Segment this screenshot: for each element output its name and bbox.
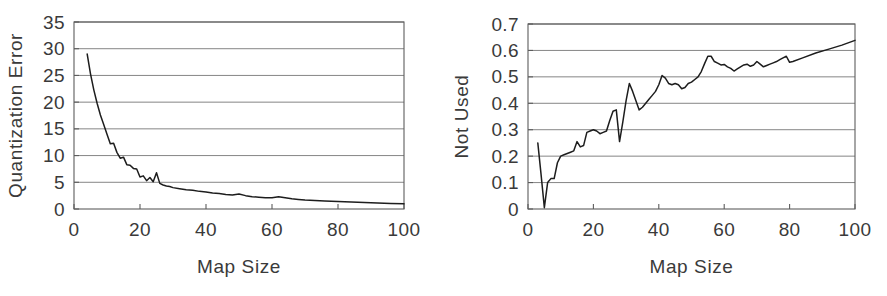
- ytick-label-4: 0.4: [491, 93, 519, 114]
- ytick-label-2: 0.2: [491, 146, 519, 167]
- xtick-label-3: 60: [261, 219, 283, 240]
- ytick-label-5: 0.5: [491, 66, 519, 87]
- ytick-label-7: 0.7: [491, 14, 519, 35]
- ytick-label-5: 25: [43, 65, 65, 86]
- figure-two-line-charts: 05101520253035020406080100Quantization E…: [0, 0, 887, 296]
- ytick-label-1: 5: [54, 172, 65, 193]
- gridlines-group: [528, 24, 855, 183]
- chart-panel-quantization-error: 05101520253035020406080100Quantization E…: [0, 0, 443, 296]
- plot-frame-rect: [528, 24, 855, 209]
- ytick-labels-group: 00.10.20.30.40.50.60.7: [491, 14, 519, 220]
- tickmarks-group: [528, 24, 855, 209]
- x-axis-title: Map Size: [649, 256, 733, 277]
- plot-frame: [74, 22, 404, 209]
- xtick-label-4: 80: [327, 219, 349, 240]
- xtick-label-2: 40: [648, 219, 670, 240]
- xtick-label-3: 60: [713, 219, 735, 240]
- y-axis-title: Not Used: [451, 74, 472, 158]
- xtick-label-5: 100: [839, 219, 872, 240]
- quantization-error-chart: 05101520253035020406080100Quantization E…: [0, 0, 443, 296]
- xtick-label-4: 80: [779, 219, 801, 240]
- xtick-label-0: 0: [69, 219, 80, 240]
- x-axis-title: Map Size: [197, 256, 281, 277]
- ytick-label-2: 10: [43, 145, 65, 166]
- ytick-label-0: 0: [54, 199, 65, 220]
- ytick-label-6: 0.6: [491, 40, 519, 61]
- xtick-label-5: 100: [388, 219, 421, 240]
- ytick-labels-group: 05101520253035: [43, 12, 65, 220]
- xtick-label-2: 40: [195, 219, 217, 240]
- xtick-labels-group: 020406080100: [523, 219, 872, 240]
- xtick-label-1: 20: [129, 219, 151, 240]
- not-used-chart: 00.10.20.30.40.50.60.7020406080100Not Us…: [443, 0, 887, 296]
- ytick-label-1: 0.1: [491, 172, 519, 193]
- ytick-label-4: 20: [43, 92, 65, 113]
- y-axis-title: Quantization Error: [5, 33, 26, 198]
- ytick-label-7: 35: [43, 12, 65, 33]
- ytick-label-3: 0.3: [491, 119, 519, 140]
- plot-frame-rect: [74, 22, 404, 209]
- ytick-label-3: 15: [43, 118, 65, 139]
- xtick-label-0: 0: [523, 219, 534, 240]
- ytick-label-6: 30: [43, 38, 65, 59]
- ytick-label-0: 0: [508, 199, 519, 220]
- chart-panel-not-used: 00.10.20.30.40.50.60.7020406080100Not Us…: [443, 0, 887, 296]
- xtick-label-1: 20: [582, 219, 604, 240]
- tickmarks-group: [74, 22, 404, 209]
- plot-frame: [528, 24, 855, 209]
- xtick-labels-group: 020406080100: [69, 219, 421, 240]
